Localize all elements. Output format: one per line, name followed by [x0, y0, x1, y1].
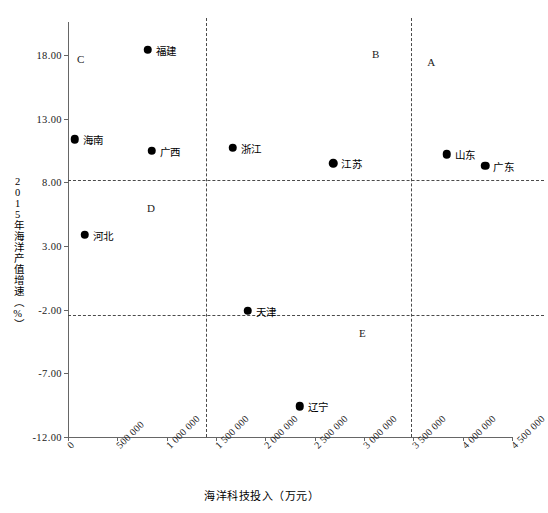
region-label-e: E: [359, 327, 366, 339]
data-point-label: 浙江: [241, 140, 262, 155]
x-tick-mark: [413, 437, 414, 441]
x-tick-mark: [315, 437, 316, 441]
y-tick-label: -2.00: [38, 304, 62, 315]
data-point-label: 广东: [493, 158, 514, 173]
x-tick-label: 1 500 000: [213, 413, 251, 451]
region-label-b: B: [372, 48, 379, 60]
horizontal-reference-line: [68, 315, 544, 316]
scatter-chart: 18.0013.008.003.00-2.00-7.00-12.00 0500 …: [0, 0, 548, 513]
x-tick-mark: [216, 437, 217, 441]
x-tick-label: 2 500 000: [312, 413, 350, 451]
y-tick-label: 3.00: [42, 241, 62, 252]
y-axis-line: [68, 22, 69, 438]
y-tick-mark: [64, 246, 68, 247]
x-tick-label: 4 000 000: [460, 413, 498, 451]
data-point-label: 山东: [455, 147, 476, 162]
data-point-label: 广西: [160, 143, 181, 158]
data-point-marker[interactable]: [229, 144, 238, 153]
y-tick-mark: [64, 373, 68, 374]
region-label-d: D: [147, 202, 155, 214]
x-tick-mark: [167, 437, 168, 441]
y-tick-label: 8.00: [42, 177, 62, 188]
data-point-marker[interactable]: [443, 150, 452, 159]
data-point-marker[interactable]: [296, 402, 305, 411]
data-point-label: 辽宁: [308, 399, 329, 414]
region-label-a: A: [427, 56, 435, 68]
vertical-reference-line: [411, 18, 412, 437]
data-point-label: 天津: [256, 303, 277, 318]
x-axis-title: 海洋科技投入（万元）: [204, 487, 319, 503]
data-point-label: 河北: [93, 227, 114, 242]
x-tick-label: 2 000 000: [262, 413, 300, 451]
data-point-marker[interactable]: [81, 230, 90, 239]
x-tick-label: 0: [65, 439, 77, 451]
x-tick-mark: [512, 437, 513, 441]
y-tick-label: -12.00: [32, 432, 62, 443]
x-tick-label: 500 000: [114, 419, 146, 451]
y-tick-label: 13.00: [36, 113, 62, 124]
data-point-marker[interactable]: [148, 146, 157, 155]
y-axis-title: 2015年海洋产值增速（%）: [7, 176, 23, 330]
y-tick-mark: [64, 55, 68, 56]
region-label-c: C: [77, 53, 84, 65]
data-point-marker[interactable]: [71, 135, 80, 144]
y-tick-mark: [64, 182, 68, 183]
data-point-marker[interactable]: [329, 159, 338, 168]
y-tick-mark: [64, 310, 68, 311]
x-tick-label: 3 000 000: [361, 413, 399, 451]
x-tick-mark: [463, 437, 464, 441]
y-tick-mark: [64, 119, 68, 120]
x-tick-mark: [68, 437, 69, 441]
x-tick-label: 3 500 000: [410, 413, 448, 451]
data-point-label: 海南: [83, 132, 104, 147]
data-point-marker[interactable]: [144, 46, 153, 55]
x-tick-mark: [117, 437, 118, 441]
y-tick-label: 18.00: [36, 50, 62, 61]
x-tick-mark: [364, 437, 365, 441]
x-tick-label: 4 500 000: [509, 413, 547, 451]
data-point-marker[interactable]: [481, 162, 490, 171]
data-point-label: 福建: [156, 42, 177, 57]
horizontal-reference-line: [68, 180, 544, 181]
data-point-label: 江苏: [341, 156, 362, 171]
x-tick-label: 1 000 000: [164, 413, 202, 451]
vertical-reference-line: [206, 18, 207, 437]
y-tick-label: -7.00: [38, 368, 62, 379]
data-point-marker[interactable]: [243, 307, 252, 316]
x-tick-mark: [265, 437, 266, 441]
